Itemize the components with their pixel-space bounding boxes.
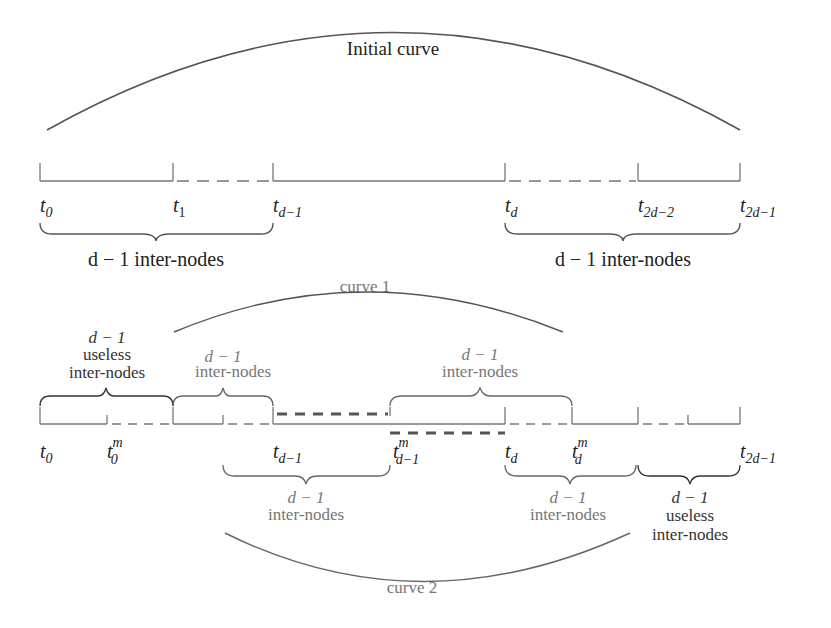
upper-brace-mid-l2: inter-nodes xyxy=(195,362,271,381)
lower-brace-labels: d − 1 inter-nodes d − 1 inter-nodes d − … xyxy=(268,488,728,544)
lower-brace-left xyxy=(223,465,390,484)
top-node-labels: t0 t1 td−1 td t2d−2 t2d−1 xyxy=(40,194,776,220)
upper-brace-right-l2: inter-nodes xyxy=(442,362,518,381)
curve1 xyxy=(174,292,563,332)
node-label-t-d-m: tmd xyxy=(572,435,588,467)
lower-brace-mid-l2: inter-nodes xyxy=(530,505,606,524)
node-label-t-d: td xyxy=(505,194,519,220)
upper-brace-right xyxy=(390,388,572,406)
node-label-t-d-minus-1: td−1 xyxy=(273,194,302,220)
curve2-label: curve 2 xyxy=(387,578,438,597)
initial-curve-label: Initial curve xyxy=(347,38,439,59)
node-label-t-d-b: td xyxy=(505,440,519,466)
lower-brace-left-l2: inter-nodes xyxy=(268,505,344,524)
node-label-t-d-minus-1-m: tmd−1 xyxy=(393,435,419,467)
lower-brace-useless xyxy=(638,465,740,484)
top-timeline xyxy=(40,163,740,181)
top-brace-left xyxy=(40,223,273,241)
top-braces xyxy=(40,223,740,241)
upper-brace-mid xyxy=(173,388,273,406)
curve2 xyxy=(225,533,630,582)
node-label-t-d-minus-1-b: td−1 xyxy=(273,440,302,466)
node-label-t1: t1 xyxy=(173,194,186,220)
top-brace-right xyxy=(505,223,740,241)
lower-brace-useless-l3: inter-nodes xyxy=(652,525,728,544)
lower-brace-mid xyxy=(505,465,636,484)
node-label-t-2d-minus-1-b: t2d−1 xyxy=(740,440,776,466)
bottom-timeline xyxy=(40,407,740,424)
top-brace-left-label: d − 1 inter-nodes xyxy=(88,248,224,270)
bottom-lower-braces xyxy=(223,465,740,484)
lower-brace-useless-l2: useless xyxy=(666,506,714,525)
upper-brace-useless xyxy=(40,388,173,406)
bottom-upper-braces xyxy=(40,388,572,406)
upper-brace-useless-l3: inter-nodes xyxy=(69,363,145,382)
bottom-node-labels: t0 tm0 td−1 tmd−1 td tmd t2d−1 xyxy=(40,435,776,467)
node-label-t0-b: t0 xyxy=(40,440,53,466)
top-brace-right-label: d − 1 inter-nodes xyxy=(555,248,691,270)
node-label-t0: t0 xyxy=(40,194,53,220)
node-label-t-2d-minus-1: t2d−1 xyxy=(740,194,776,220)
lower-brace-useless-l1: d − 1 xyxy=(672,488,709,507)
upper-brace-useless-l2: useless xyxy=(83,345,131,364)
node-label-t-2d-minus-2: t2d−2 xyxy=(638,194,674,220)
node-label-t0-m: tm0 xyxy=(107,435,123,467)
knot-subdivision-diagram: Initial curve t0 t1 td−1 td t2d−2 t2d−1 … xyxy=(0,0,831,628)
curve1-label: curve 1 xyxy=(340,277,391,296)
upper-brace-labels: d − 1 useless inter-nodes d − 1 inter-no… xyxy=(69,328,518,382)
